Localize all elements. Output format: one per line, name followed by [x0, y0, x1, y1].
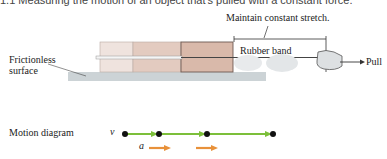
surface-label-line1: Frictionless — [9, 54, 56, 65]
velocity-symbol: v⃗ — [110, 126, 122, 137]
surface-label-line2: surface — [9, 65, 38, 76]
rubber-band-label: Rubber band — [240, 45, 291, 56]
acceleration-symbol: a⃗ — [139, 140, 152, 151]
velocity-vectors — [126, 131, 272, 137]
figure: 1.1 Measuring the motion of an object th… — [0, 0, 387, 159]
acceleration-vectors — [149, 145, 218, 151]
pull-label: Pull — [366, 56, 382, 67]
motion-diagram-label: Motion diagram — [9, 127, 74, 138]
